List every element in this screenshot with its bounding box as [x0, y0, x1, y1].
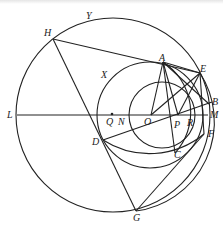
label-H: H	[44, 28, 51, 38]
label-N: N	[118, 117, 125, 127]
label-B: B	[212, 97, 218, 107]
geometry-diagram: H Y X A E B M F L Q N O P R D C G	[0, 0, 223, 227]
label-D: D	[92, 137, 99, 147]
label-C: C	[174, 150, 181, 160]
line-OA	[151, 62, 163, 115]
label-P: P	[174, 120, 180, 130]
label-Y: Y	[86, 11, 92, 21]
label-O: O	[144, 117, 151, 127]
label-F: F	[208, 129, 214, 139]
line-AP	[163, 62, 178, 115]
label-G: G	[133, 213, 140, 223]
label-M: M	[210, 110, 218, 120]
label-Q: Q	[106, 117, 113, 127]
label-L: L	[7, 110, 13, 120]
line-AC	[163, 62, 175, 153]
diagram-canvas	[0, 0, 223, 227]
label-R: R	[187, 118, 193, 128]
label-A: A	[159, 53, 165, 63]
label-E: E	[200, 64, 206, 74]
point-Q	[111, 113, 114, 116]
label-X: X	[101, 70, 107, 80]
